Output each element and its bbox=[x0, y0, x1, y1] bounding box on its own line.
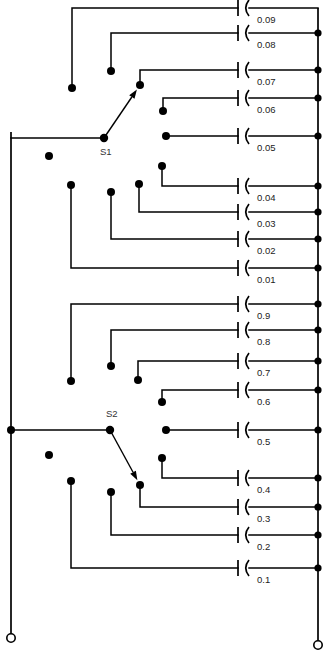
capacitor-value-label: 0.01 bbox=[257, 274, 276, 285]
rail-junction-dot bbox=[314, 474, 321, 481]
rail-junction-dot bbox=[314, 357, 321, 364]
switch-contact-node[interactable] bbox=[67, 377, 75, 385]
switch-contact-node[interactable] bbox=[135, 180, 143, 188]
switch-contact-node[interactable] bbox=[107, 188, 115, 196]
capacitor-layer bbox=[238, 0, 249, 576]
capacitor-branch-wire bbox=[111, 492, 238, 535]
switch-contact-node[interactable] bbox=[68, 84, 76, 92]
label-layer: 0.090.080.070.060.050.040.030.020.010.90… bbox=[100, 14, 276, 585]
loose-node-s1-upper[interactable] bbox=[45, 152, 53, 160]
capacitor-value-label: 0.06 bbox=[257, 104, 276, 115]
capacitor-value-label: 0.9 bbox=[257, 310, 270, 321]
capacitor-value-label: 0.2 bbox=[257, 541, 270, 552]
capacitor-value-label: 0.07 bbox=[257, 76, 276, 87]
capacitor-value-label: 0.3 bbox=[257, 513, 270, 524]
rail-junction-dot bbox=[314, 132, 321, 139]
capacitor-branch-wire bbox=[162, 166, 238, 186]
capacitor-value-label: 0.03 bbox=[257, 218, 276, 229]
switch-contact-node[interactable] bbox=[107, 67, 115, 75]
switch-contact-node[interactable] bbox=[136, 81, 144, 89]
switch-contact-node[interactable] bbox=[67, 477, 75, 485]
switch-contact-node[interactable] bbox=[158, 398, 166, 406]
capacitor-branch-wire bbox=[71, 481, 238, 568]
capacitor-branch-wire bbox=[71, 304, 238, 381]
capacitor-value-label: 0.02 bbox=[257, 245, 276, 256]
rail-junction-dot bbox=[314, 264, 321, 271]
node-layer bbox=[7, 29, 322, 649]
capacitor-value-label: 0.04 bbox=[257, 192, 276, 203]
rail-junction-dot bbox=[314, 300, 321, 307]
capacitor-value-label: 0.5 bbox=[257, 436, 270, 447]
left-rail-s2-junction bbox=[7, 426, 15, 434]
capacitor-value-label: 0.8 bbox=[257, 336, 270, 347]
capacitor-branch-wire bbox=[162, 390, 238, 402]
switch-contact-node[interactable] bbox=[67, 181, 75, 189]
capacitor-value-label: 0.4 bbox=[257, 484, 270, 495]
switch-contact-node[interactable] bbox=[158, 454, 166, 462]
capacitor-value-label: 0.7 bbox=[257, 367, 270, 378]
left-terminal[interactable] bbox=[7, 634, 15, 642]
switch-designator-label: S1 bbox=[100, 146, 112, 157]
capacitor-value-label: 0.08 bbox=[257, 39, 276, 50]
capacitor-branch-wire bbox=[162, 458, 238, 478]
rail-junction-dot bbox=[314, 326, 321, 333]
capacitor-value-label: 0.6 bbox=[257, 396, 270, 407]
rail-junction-dot bbox=[314, 66, 321, 73]
schematic-sheet: 0.090.080.070.060.050.040.030.020.010.90… bbox=[0, 0, 330, 663]
rail-junction-dot bbox=[314, 235, 321, 242]
rail-junction-dot bbox=[314, 182, 321, 189]
rail-junction-dot bbox=[314, 386, 321, 393]
right-terminal[interactable] bbox=[314, 641, 322, 649]
switch-blade[interactable] bbox=[104, 97, 132, 138]
capacitor-value-label: 0.1 bbox=[257, 574, 270, 585]
switch-pivot-node[interactable] bbox=[106, 426, 114, 434]
switch-contact-node[interactable] bbox=[136, 481, 144, 489]
switch-contact-node[interactable] bbox=[159, 107, 167, 115]
rail-junction-dot bbox=[314, 29, 321, 36]
switch-contact-node[interactable] bbox=[162, 132, 170, 140]
wire-layer bbox=[11, 8, 318, 568]
rail-junction-dot bbox=[314, 564, 321, 571]
capacitor-branch-wire bbox=[72, 8, 238, 88]
loose-node-s2-upper[interactable] bbox=[45, 451, 53, 459]
switch-contact-node[interactable] bbox=[134, 376, 142, 384]
capacitor-branch-wire bbox=[139, 184, 238, 212]
switch-contact-node[interactable] bbox=[107, 362, 115, 370]
capacitor-branch-wire bbox=[111, 192, 238, 239]
switch-pivot-node[interactable] bbox=[100, 134, 108, 142]
switch-designator-label: S2 bbox=[106, 408, 118, 419]
switch-contact-node[interactable] bbox=[107, 488, 115, 496]
capacitor-branch-wire bbox=[140, 485, 238, 507]
rail-junction-dot bbox=[314, 208, 321, 215]
switch-blade[interactable] bbox=[110, 430, 133, 472]
switch-contact-node[interactable] bbox=[162, 426, 170, 434]
switch-contact-node[interactable] bbox=[158, 162, 166, 170]
switch-blade-arrowhead bbox=[129, 90, 137, 99]
capacitor-value-label: 0.05 bbox=[257, 142, 276, 153]
rail-junction-dot bbox=[314, 503, 321, 510]
capacitor-value-label: 0.09 bbox=[257, 14, 276, 25]
capacitor-decade-schematic: 0.090.080.070.060.050.040.030.020.010.90… bbox=[0, 0, 330, 663]
rail-junction-dot bbox=[314, 94, 321, 101]
capacitor-branch-wire bbox=[163, 98, 238, 111]
rail-junction-dot bbox=[314, 426, 321, 433]
switch-blade-arrowhead bbox=[130, 471, 137, 480]
capacitor-branch-wire bbox=[71, 185, 238, 268]
capacitor-branch-wire bbox=[111, 33, 238, 71]
rail-junction-dot bbox=[314, 531, 321, 538]
capacitor-branch-wire bbox=[140, 70, 238, 85]
capacitor-branch-wire bbox=[138, 361, 238, 380]
